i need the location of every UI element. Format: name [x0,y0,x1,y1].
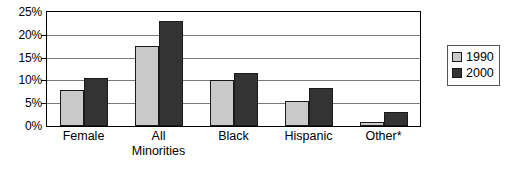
y-tick-mark [41,80,46,81]
legend-swatch-icon [452,68,462,78]
x-tick-label-line: All [152,129,166,143]
legend-label: 1990 [466,51,494,64]
bar-other-2000 [384,112,408,126]
y-tick-mark [41,58,46,59]
bar-female-1990 [60,90,84,126]
y-tick-label: 10% [0,74,42,86]
bar-group [285,12,333,126]
x-tick-label-line: Female [63,129,105,143]
x-tick-label-line: Hispanic [285,129,333,143]
bar-black-1990 [210,80,234,126]
bar-all-minorities-1990 [135,46,159,126]
bar-chart: 0%5%10%15%20%25% FemaleAllMinoritiesBlac… [0,0,510,170]
x-axis-category-labels: FemaleAllMinoritiesBlackHispanicOther* [46,129,421,169]
x-tick-label: Black [196,129,271,144]
bar-group [210,12,258,126]
x-tick-label: AllMinorities [121,129,196,159]
bar-black-2000 [234,73,258,126]
legend-item-2000: 2000 [452,65,494,81]
x-tick-label: Other* [346,129,421,144]
legend-item-1990: 1990 [452,49,494,65]
y-axis: 0%5%10%15%20%25% [0,0,42,170]
bar-group [360,12,408,126]
bar-all-minorities-2000 [159,21,183,126]
bar-female-2000 [84,78,108,126]
y-tick-mark [41,35,46,36]
x-tick-label-line: Minorities [121,144,196,159]
y-tick-label: 5% [0,97,42,109]
y-tick-label: 20% [0,29,42,41]
x-tick-label-line: Black [218,129,249,143]
x-tick-label: Female [46,129,121,144]
y-tick-mark [41,103,46,104]
bar-group [135,12,183,126]
bars-layer [47,12,420,126]
bar-group [60,12,108,126]
chart-legend: 19902000 [447,45,500,86]
y-tick-label: 25% [0,6,42,18]
legend-swatch-icon [452,52,462,62]
bar-hispanic-2000 [309,88,333,126]
x-tick-label: Hispanic [271,129,346,144]
bar-other-1990 [360,122,384,126]
y-tick-label: 0% [0,120,42,132]
legend-label: 2000 [466,67,494,80]
bar-hispanic-1990 [285,101,309,126]
x-tick-label-line: Other* [365,129,401,143]
y-tick-label: 15% [0,52,42,64]
